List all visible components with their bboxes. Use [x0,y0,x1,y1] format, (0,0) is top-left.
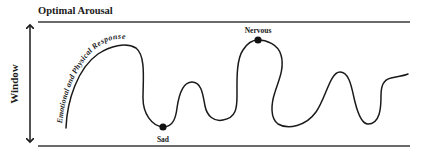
arousal-window-diagram: Optimal Arousal Window Emotional and Phy… [0,0,425,152]
nervous-point-label: Nervous [245,26,272,35]
sad-point-marker [159,123,166,130]
sad-point-label: Sad [157,135,170,144]
axis-label: Window [8,64,20,104]
response-curve [66,40,408,128]
nervous-point-marker [254,36,261,43]
title-label: Optimal Arousal [38,5,113,16]
